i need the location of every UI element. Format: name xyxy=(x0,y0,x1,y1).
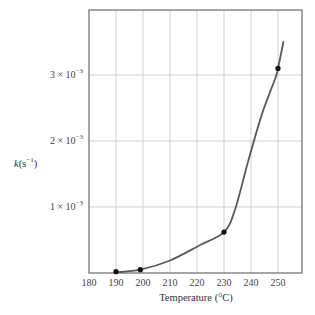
y-tick-exponent: −3 xyxy=(76,133,84,141)
data-point xyxy=(138,267,143,272)
y-tick-mantissa: 1 × 10 xyxy=(50,201,76,212)
data-point xyxy=(275,66,280,71)
y-axis-label-unit: (s xyxy=(19,158,27,170)
y-tick-mantissa: 3 × 10 xyxy=(50,69,76,80)
x-tick-label: 230 xyxy=(217,277,232,288)
y-tick-label: 3 × 10−3 xyxy=(50,67,84,80)
x-axis-label: Temperature (°C) xyxy=(159,292,233,304)
chart: 180190200210220230240250 1 × 10−32 × 10−… xyxy=(0,0,315,315)
data-point xyxy=(221,229,226,234)
grid-lines xyxy=(89,10,302,273)
y-axis-label: k(s−1) xyxy=(14,156,38,170)
x-tick-label: 250 xyxy=(271,277,286,288)
y-tick-label: 1 × 10−3 xyxy=(50,199,84,212)
y-tick-mantissa: 2 × 10 xyxy=(50,135,76,146)
x-tick-label: 200 xyxy=(136,277,151,288)
y-tick-exponent: −3 xyxy=(76,199,84,207)
x-axis-ticks: 180190200210220230240250 xyxy=(82,277,286,288)
x-tick-label: 190 xyxy=(109,277,124,288)
fitted-curve xyxy=(116,42,283,272)
y-tick-exponent: −3 xyxy=(76,67,84,75)
data-point xyxy=(113,269,118,274)
y-tick-label: 2 × 10−3 xyxy=(50,133,84,146)
x-tick-label: 220 xyxy=(190,277,205,288)
x-tick-label: 180 xyxy=(82,277,97,288)
x-tick-label: 240 xyxy=(244,277,259,288)
x-tick-label: 210 xyxy=(163,277,178,288)
y-axis-ticks: 1 × 10−32 × 10−33 × 10−3 xyxy=(50,67,84,212)
y-axis-label-close: ) xyxy=(34,158,38,170)
